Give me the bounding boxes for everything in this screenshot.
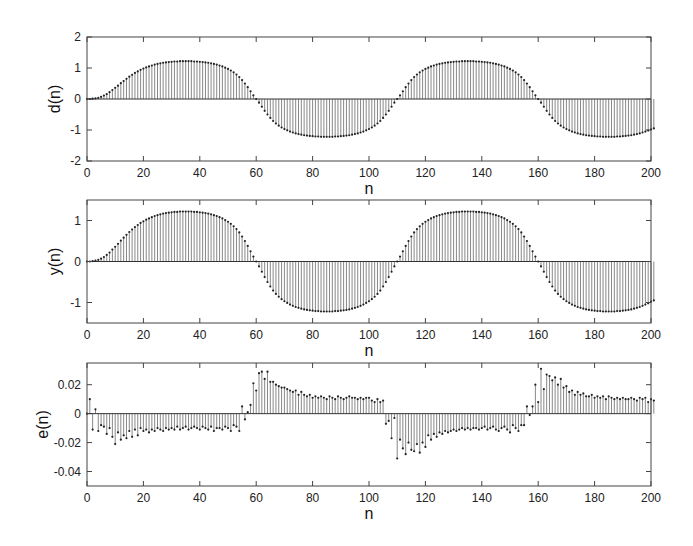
x-axis-label: n <box>365 505 374 522</box>
y-tick-label: 0 <box>74 407 81 421</box>
x-tick-label: 100 <box>359 328 379 342</box>
y-tick-label: 0.02 <box>58 378 82 392</box>
x-tick-label: 120 <box>415 166 435 180</box>
x-tick-label: 200 <box>641 491 661 505</box>
x-tick-label: 120 <box>415 328 435 342</box>
y-axis-label: e(n) <box>34 410 51 438</box>
x-tick-label: 100 <box>359 491 379 505</box>
subplot-yn: 020406080100120140160180200-101ny(n) <box>46 200 661 359</box>
x-tick-label: 100 <box>359 166 379 180</box>
y-tick-label: -0.04 <box>54 465 82 479</box>
y-tick-label: 2 <box>74 30 81 44</box>
x-axis-label: n <box>365 180 374 197</box>
x-tick-label: 20 <box>137 166 151 180</box>
x-tick-label: 0 <box>84 491 91 505</box>
y-tick-label: 1 <box>74 214 81 228</box>
x-tick-label: 180 <box>585 491 605 505</box>
y-axis-label: d(n) <box>46 85 63 113</box>
y-tick-label: -1 <box>70 123 81 137</box>
x-tick-label: 60 <box>250 491 264 505</box>
x-tick-label: 180 <box>585 328 605 342</box>
y-tick-label: 0 <box>74 92 81 106</box>
x-tick-label: 160 <box>528 166 548 180</box>
y-tick-label: -0.02 <box>54 436 82 450</box>
x-tick-label: 60 <box>250 166 264 180</box>
x-tick-label: 140 <box>472 166 492 180</box>
x-tick-label: 20 <box>137 328 151 342</box>
x-tick-label: 20 <box>137 491 151 505</box>
x-tick-label: 60 <box>250 328 264 342</box>
x-tick-label: 200 <box>641 166 661 180</box>
x-tick-label: 40 <box>193 491 207 505</box>
x-tick-label: 80 <box>306 491 320 505</box>
x-tick-label: 40 <box>193 166 207 180</box>
x-tick-label: 0 <box>84 328 91 342</box>
y-axis-label: y(n) <box>46 248 63 276</box>
x-tick-label: 80 <box>306 328 320 342</box>
x-tick-label: 180 <box>585 166 605 180</box>
x-axis-label: n <box>365 342 374 359</box>
x-tick-label: 140 <box>472 491 492 505</box>
x-tick-label: 200 <box>641 328 661 342</box>
y-tick-label: -2 <box>70 154 81 168</box>
x-tick-label: 140 <box>472 328 492 342</box>
y-tick-label: 1 <box>74 61 81 75</box>
x-tick-label: 160 <box>528 491 548 505</box>
y-tick-label: -1 <box>70 296 81 310</box>
subplot-en: 020406080100120140160180200-0.04-0.0200.… <box>34 363 661 522</box>
x-tick-label: 80 <box>306 166 320 180</box>
x-tick-label: 40 <box>193 328 207 342</box>
subplot-dn: 020406080100120140160180200-2-1012nd(n) <box>46 30 661 197</box>
figure: 020406080100120140160180200-2-1012nd(n)0… <box>0 0 693 546</box>
x-tick-label: 160 <box>528 328 548 342</box>
x-tick-label: 0 <box>84 166 91 180</box>
x-tick-label: 120 <box>415 491 435 505</box>
y-tick-label: 0 <box>74 255 81 269</box>
